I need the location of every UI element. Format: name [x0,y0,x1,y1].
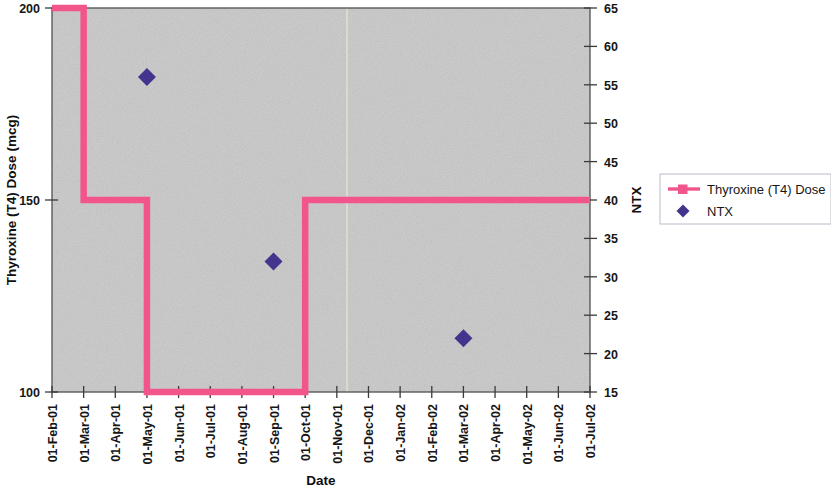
x-tick-label-01-May-02: 01-May-02 [521,404,535,464]
x-tick-label-01-Jun-01: 01-Jun-01 [173,404,187,462]
x-tick-label-01-Oct-01: 01-Oct-01 [299,404,313,461]
x-tick-label-01-Mar-01: 01-Mar-01 [78,404,92,462]
chart-figure: 200 150 100 Thyroxine (T4) Dose (mcg) 65… [0,0,831,494]
x-tick-label-01-Apr-02: 01-Apr-02 [489,404,503,462]
x-tick-label-01-Jul-02: 01-Jul-02 [584,404,598,458]
y2-tick-label-50: 50 [604,117,618,131]
x-tick-label-01-May-01: 01-May-01 [141,404,155,464]
y2-tick-label-30: 30 [604,271,618,285]
x-tick-label-01-Sep-01: 01-Sep-01 [268,404,282,463]
y2-tick-label-40: 40 [604,194,618,208]
x-tick-label-01-Mar-02: 01-Mar-02 [457,404,471,462]
y2-tick-label-55: 55 [604,79,618,93]
x-tick-label-01-Nov-01: 01-Nov-01 [331,404,345,464]
legend-label-thyroxine: Thyroxine (T4) Dose [707,182,825,197]
chart-svg: 200 150 100 Thyroxine (T4) Dose (mcg) 65… [0,0,831,494]
legend-square-marker [678,185,688,195]
x-tick-label-01-Feb-02: 01-Feb-02 [426,404,440,462]
y2-tick-label-65: 65 [604,2,618,16]
x-tick-label-01-Jan-02: 01-Jan-02 [394,404,408,462]
x-tick-label-01-Jul-01: 01-Jul-01 [204,404,218,458]
y2-tick-label-60: 60 [604,40,618,54]
x-tick-label-01-Feb-01: 01-Feb-01 [46,404,60,462]
y2-tick-label-15: 15 [604,386,618,400]
y-axis-left-title: Thyroxine (T4) Dose (mcg) [4,115,19,285]
x-tick-label-01-Apr-01: 01-Apr-01 [109,404,123,462]
x-axis-title: Date [306,473,336,488]
y2-tick-label-25: 25 [604,309,618,323]
x-tick-label-01-Jun-02: 01-Jun-02 [552,404,566,462]
y2-tick-label-20: 20 [604,348,618,362]
y-tick-label-200: 200 [19,2,40,16]
legend-label-ntx: NTX [707,204,733,219]
y2-tick-label-35: 35 [604,232,618,246]
y2-tick-label-45: 45 [604,156,618,170]
chart-legend: Thyroxine (T4) Dose NTX [660,174,831,224]
y-axis-right-title: NTX [629,187,644,214]
y-tick-label-150: 150 [19,194,40,208]
x-tick-label-01-Aug-01: 01-Aug-01 [236,404,250,464]
y-tick-label-100: 100 [19,386,40,400]
x-tick-label-01-Dec-01: 01-Dec-01 [362,404,376,463]
